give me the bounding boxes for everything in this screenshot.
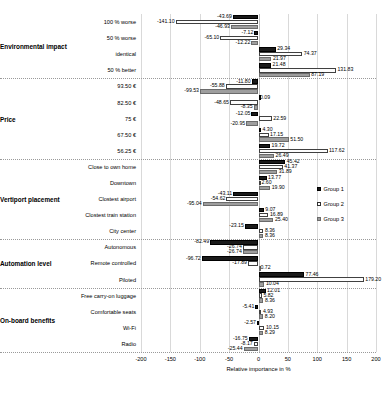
bar-group-1 [245,224,259,228]
gridline [376,14,377,352]
bar-group-2 [259,310,262,314]
bar-value-label: 8.29 [265,330,275,335]
legend-item[interactable]: Group 2 [317,201,344,207]
bar-group-2 [259,293,262,297]
category-label: Free carry-on luggage [81,293,136,299]
category-label: Comfortable seats [91,309,136,315]
bar-group-1 [257,321,259,325]
bar-group-2 [226,84,259,88]
bar-value-label: -5.41 [242,304,254,309]
legend-item[interactable]: Group 3 [317,216,344,222]
legend-swatch-icon [317,187,321,191]
bar-value-label: -141.10 [157,19,175,24]
bar-value-label: 87.19 [311,73,324,78]
bar-group-1 [259,128,262,132]
relative-importance-bar-chart: 100 % worse-43.69-141.10-46.9350 % worse… [0,0,391,397]
category-label: 82.50 € [117,100,136,106]
bar-group-3 [200,89,258,93]
attribute-group-label: Automation level [0,260,52,267]
category-label: Wi-Fi [123,325,136,331]
bar-group-1 [233,15,259,19]
x-axis-title: Relative importance in % [141,366,376,373]
bar-value-label: 8.36 [265,233,275,238]
legend-label: Group 3 [324,216,344,222]
bar-value-label: -23.15 [229,224,244,229]
category-label: 50 % worse [107,35,136,41]
bar-value-label: -96.72 [186,256,201,261]
x-tick-label: -100 [194,356,205,362]
x-tick-label: 150 [342,356,351,362]
bar-group-3 [203,202,259,206]
bar-group-3 [259,298,264,302]
gridline [170,14,171,352]
bar-group-3 [231,25,259,29]
bar-group-1 [259,47,276,51]
x-tick-label: -150 [165,356,176,362]
x-tick-label: -200 [135,356,146,362]
category-label: 67.50 € [117,132,136,138]
legend-label: Group 1 [324,186,344,192]
x-tick-label: 100 [313,356,322,362]
bar-group-2 [226,197,258,201]
legend-item[interactable]: Group 1 [317,186,344,192]
bar-group-1 [254,31,258,35]
legend-label: Group 2 [324,201,344,207]
bar-group-3 [259,137,289,141]
bar-group-2 [243,245,259,249]
bar-value-label: -48.65 [214,100,229,105]
bar-group-1 [202,256,259,260]
gridline [141,14,142,352]
bar-group-2 [259,149,328,153]
bar-value-label: 8.36 [265,298,275,303]
bar-group-3 [246,121,258,125]
x-axis: Relative importance in % -200-150-100-50… [141,352,376,372]
group-separator [0,159,376,160]
bar-value-label: 179.20 [365,277,381,282]
bar-group-2 [259,229,264,233]
bar-group-3 [259,186,271,190]
bar-group-1 [252,79,259,83]
group-separator [0,239,376,240]
bar-group-3 [259,282,265,286]
group-separator [0,288,376,289]
bar-value-label: 0.72 [260,266,270,271]
group-separator [0,78,376,79]
bar-value-label: 19.90 [272,185,285,190]
gridline [317,14,318,352]
bar-group-3 [259,314,264,318]
bar-group-3 [244,347,259,351]
gridline [288,14,289,352]
category-label: Clostest airport [98,196,136,202]
bar-group-1 [233,192,258,196]
plot-area: 100 % worse-43.69-141.10-46.9350 % worse… [141,14,376,352]
bar-value-label: -2.57 [244,320,256,325]
bar-value-label: 0.09 [260,95,270,100]
chart-legend: Group 1Group 2Group 3 [317,186,344,231]
bar-group-1 [259,160,286,164]
bar-value-label: -95.04 [187,201,202,206]
bar-value-label: -12.05 [236,111,251,116]
category-label: City center [109,228,136,234]
bar-value-label: 8.20 [265,314,275,319]
bar-group-3 [259,331,264,335]
category-label: 100 % worse [104,19,136,25]
gridline [229,14,230,352]
bar-value-label: -20.95 [230,121,245,126]
bar-group-2 [259,133,269,137]
attribute-group-label: Environmental impact [0,43,67,50]
bar-value-label: 25.40 [275,217,288,222]
category-label: Piloted [119,277,136,283]
attribute-group-label: Vertiport placement [0,196,60,203]
category-label: Autonomous [105,244,136,250]
category-label: 75 € [125,116,136,122]
category-label: Close to own home [88,164,136,170]
bar-value-label: -12.22 [236,40,251,45]
bar-group-3 [243,250,259,254]
gridline [200,14,201,352]
attribute-group-label: Price [0,115,16,122]
bar-group-3 [259,234,264,238]
category-label: 93.50 € [117,83,136,89]
bar-group-1 [259,63,272,67]
bar-value-label: 117.62 [329,148,344,153]
bar-value-label: 22.59 [273,116,286,121]
